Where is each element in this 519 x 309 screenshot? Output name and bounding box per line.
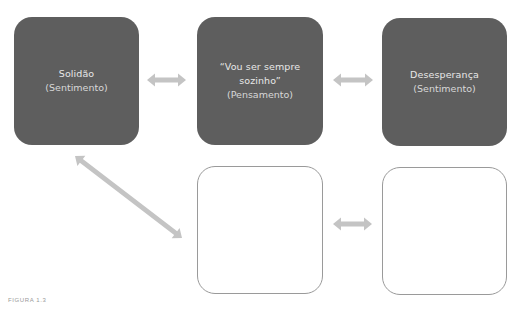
arrow-solidao-pensamento — [147, 74, 186, 87]
arrow-solidao-empty — [71, 151, 186, 243]
connector-layer — [0, 0, 519, 309]
figure-caption: FIGURA 1.3 — [8, 297, 46, 303]
arrow-empty-empty — [333, 218, 372, 231]
arrow-pensamento-desesperanca — [333, 74, 373, 87]
